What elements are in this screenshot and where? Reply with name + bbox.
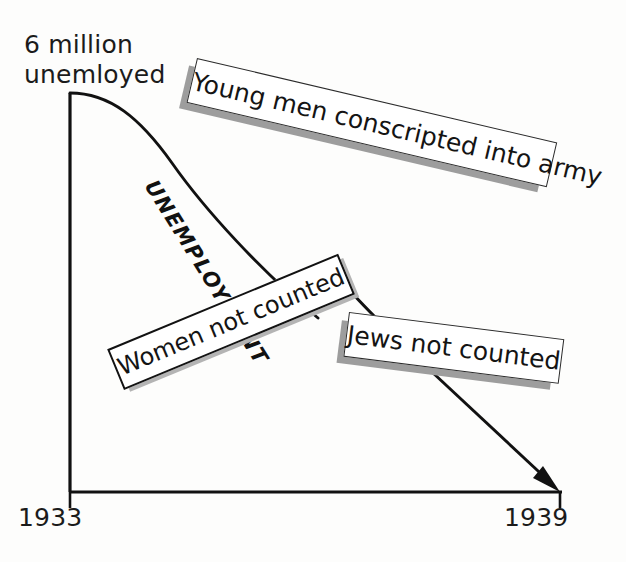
x-axis-label-start: 1933	[18, 503, 82, 533]
unemployment-chart-figure: 6 million unemloyed 1933 1939 UNEMPLOYME…	[0, 0, 626, 562]
y-axis-caption-line-1: 6 million	[24, 30, 166, 60]
y-axis-caption-line-2: unemloyed	[24, 60, 166, 90]
trend-arrow-shaft	[432, 372, 552, 484]
y-axis-caption: 6 million unemloyed	[24, 30, 166, 89]
x-axis-label-end: 1939	[504, 503, 568, 533]
